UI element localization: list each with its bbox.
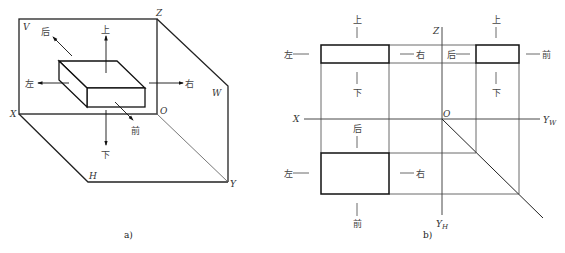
w-plane (157, 19, 228, 182)
sv-front: 前 (542, 49, 551, 60)
front-view-rect (321, 45, 389, 63)
tv-left: 左 (284, 168, 293, 179)
tv-front: 前 (353, 218, 362, 229)
top-view-rect (321, 153, 389, 194)
projection-diagram: 上 下 左 右 后 前 V Z W X O H Y a) 上 (0, 0, 565, 253)
label-v: V (23, 22, 31, 32)
figure-a-pictorial: 上 下 左 右 后 前 V Z W X O H Y a) (9, 8, 237, 240)
box-front-face (87, 88, 145, 107)
label-front: 前 (131, 125, 140, 136)
figure-b-orthographic: 上 下 左 右 后 前 上 下 后 左 右 前 Z X O YW YH b) (284, 15, 557, 240)
label-back: 后 (41, 27, 50, 37)
label-x-b: X (292, 114, 300, 124)
side-view-rect (476, 45, 519, 63)
label-h: H (88, 171, 97, 181)
label-right: 右 (185, 78, 194, 89)
sv-up: 上 (492, 15, 501, 25)
miter-line (442, 119, 543, 218)
fv-right: 右 (416, 49, 425, 60)
arrow-back (53, 37, 72, 56)
label-w: W (212, 88, 222, 98)
label-yh: YH (436, 219, 449, 231)
sv-back: 后 (447, 50, 456, 60)
oy-edge (157, 114, 228, 182)
fv-down: 下 (353, 88, 362, 98)
label-left: 左 (25, 78, 34, 89)
label-z: Z (155, 8, 163, 18)
label-o: O (160, 106, 168, 116)
sv-down: 下 (492, 88, 501, 98)
tv-back: 后 (353, 124, 362, 134)
tv-right: 右 (416, 168, 425, 179)
label-up: 上 (101, 25, 110, 35)
label-yw: YW (543, 115, 557, 127)
caption-b: b) (423, 230, 432, 240)
label-y: Y (230, 179, 237, 189)
label-z-b: Z (432, 26, 440, 36)
fv-left: 左 (284, 49, 293, 60)
label-x: X (9, 109, 17, 119)
h-plane (19, 114, 228, 182)
label-o-b: O (443, 109, 451, 119)
fv-up: 上 (353, 15, 362, 25)
caption-a: a) (124, 230, 133, 240)
label-down: 下 (101, 150, 110, 160)
